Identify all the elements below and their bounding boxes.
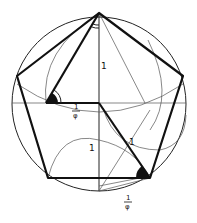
- angle-arc-top-2: [92, 27, 99, 28]
- label-diagonal-segment: 1: [129, 137, 135, 147]
- construction-arc-upper: [17, 84, 183, 112]
- label-half-base: 1 φ: [72, 103, 80, 120]
- pentagon-diagram: 1 1 φ 1 1 1 φ: [0, 0, 197, 223]
- angle-arc-top: [93, 24, 99, 25]
- svg-text:φ: φ: [125, 203, 130, 211]
- construction-arc-right: [148, 40, 162, 130]
- svg-text:1: 1: [74, 103, 78, 111]
- label-vertical-side: 1: [101, 61, 107, 71]
- svg-text:1: 1: [126, 194, 130, 202]
- svg-text:φ: φ: [73, 112, 78, 120]
- label-lower-arc: 1: [89, 143, 95, 153]
- angle-wedge-right: [136, 166, 150, 178]
- label-bottom-fraction: 1 φ: [124, 194, 132, 211]
